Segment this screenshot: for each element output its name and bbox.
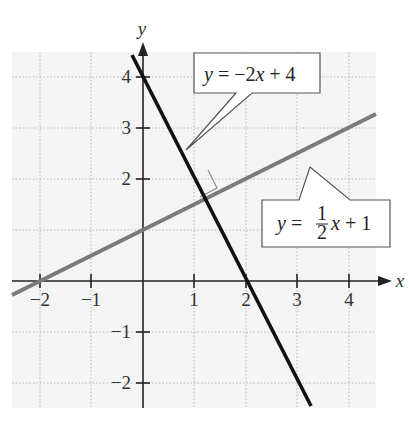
x-tick-label: −2 [30, 289, 50, 310]
y-axis-arrow-icon [138, 42, 148, 56]
x-axis-label: x [395, 270, 405, 291]
x-tick-label: −1 [81, 289, 101, 310]
equation-label-2-rest: x + 1 [330, 212, 371, 234]
equation-label-1: y = −2x + 4 [202, 63, 296, 86]
equation-label-2: y = [275, 212, 302, 235]
x-tick-label: 2 [241, 289, 251, 310]
y-tick-label: 2 [122, 168, 132, 189]
coordinate-plane: −2 −1 1 2 3 4 −2 −1 2 3 4 x y y = −2x + … [0, 0, 412, 425]
x-tick-label: 1 [189, 289, 199, 310]
y-tick-label: 3 [122, 117, 132, 138]
x-tick-label: 4 [344, 289, 354, 310]
y-tick-label: −2 [111, 372, 131, 393]
y-axis-label: y [136, 18, 147, 39]
x-tick-label: 3 [292, 289, 302, 310]
fraction-denominator: 2 [317, 221, 327, 243]
y-tick-label: −1 [111, 321, 131, 342]
y-tick-label: 4 [122, 66, 132, 87]
x-axis-arrow-icon [378, 276, 392, 286]
